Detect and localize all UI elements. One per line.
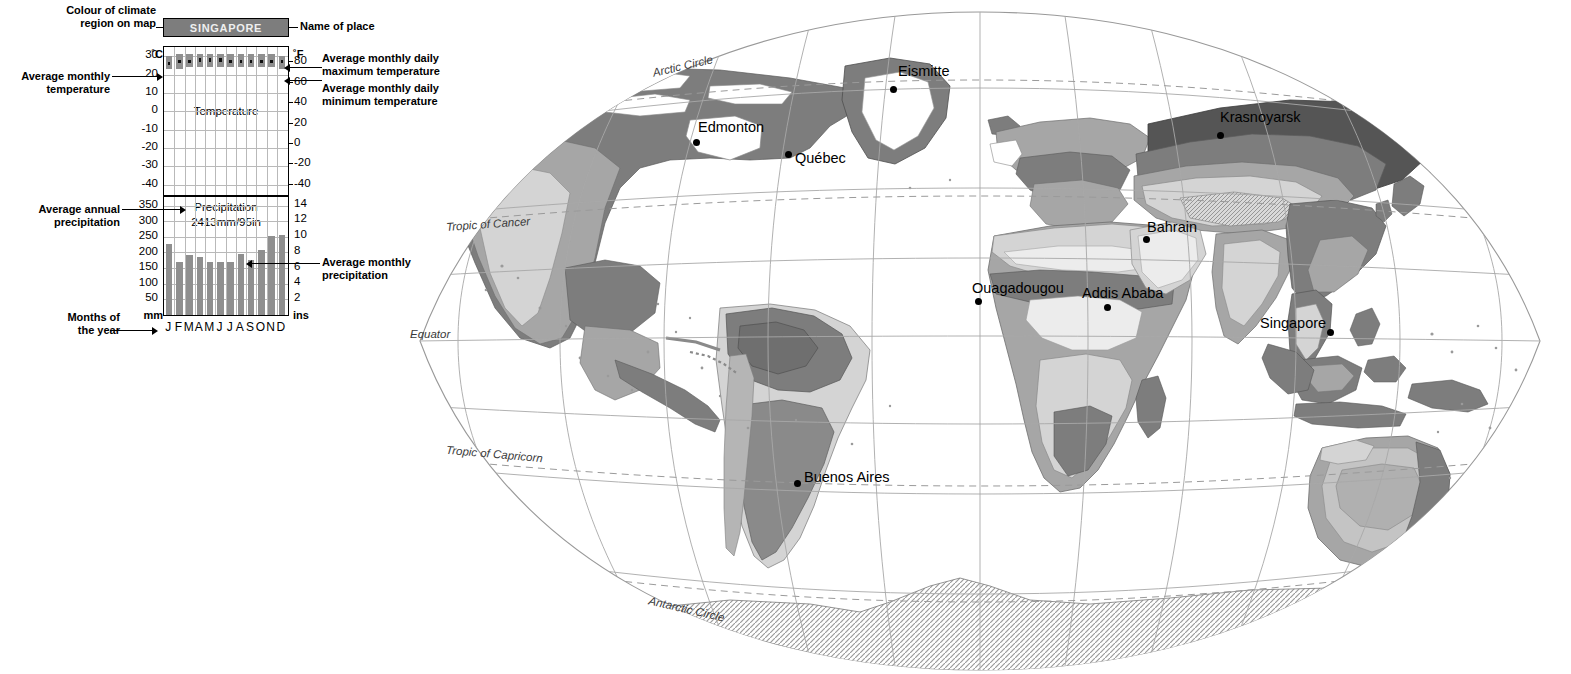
city-dot[interactable]	[1217, 132, 1224, 139]
average-temperature-marker	[178, 60, 181, 63]
average-temperature-marker	[219, 58, 222, 61]
axis-tick-label: 200	[139, 246, 158, 258]
grid-line-vertical	[246, 47, 247, 195]
city-dot[interactable]	[1104, 304, 1111, 311]
grid-line-vertical	[174, 197, 175, 315]
grid-line-vertical	[236, 47, 237, 195]
precipitation-bar	[227, 262, 234, 315]
temperature-pane: Temperature	[164, 47, 288, 195]
grid-line-vertical	[205, 47, 206, 195]
city-label[interactable]: Addis Ababa	[1082, 285, 1163, 301]
world-climate-map: Arctic CircleTropic of CancerEquatorTrop…	[390, 8, 1571, 674]
leader-line-avg-monthly-temp	[112, 76, 157, 77]
grid-line-vertical	[256, 47, 257, 195]
average-temperature-marker	[240, 60, 243, 63]
axis-tick-label: 40	[294, 96, 307, 108]
axis-tick-label: 50	[145, 292, 158, 304]
grid-line-horizontal	[164, 75, 288, 76]
city-label[interactable]: Edmonton	[698, 119, 764, 135]
grid-line-vertical	[256, 197, 257, 315]
arrow-avg-daily-max	[284, 64, 290, 72]
precipitation-bar	[279, 235, 286, 315]
average-temperature-marker	[260, 60, 263, 63]
grid-line-horizontal	[164, 130, 288, 131]
axis-tick-label: 14	[294, 198, 307, 210]
axis-celsius: 3020100-10-20-30-40	[128, 46, 158, 196]
average-temperature-marker	[188, 60, 191, 63]
axis-tick-label: -20	[141, 141, 158, 153]
axis-tick-label: -20	[294, 157, 311, 169]
axis-tick-label: 0	[294, 137, 300, 149]
grid-line-horizontal	[164, 166, 288, 167]
city-dot[interactable]	[794, 480, 801, 487]
grid-line-horizontal	[164, 148, 288, 149]
annotation-colour-of-region-line2: region on map	[80, 17, 156, 29]
axis-tick-label: 250	[139, 230, 158, 242]
grid-line-vertical	[226, 197, 227, 315]
grid-line-horizontal	[164, 111, 288, 112]
grid-line-vertical	[236, 197, 237, 315]
axis-tick-label: 20	[294, 117, 307, 129]
grid-line-vertical	[215, 197, 216, 315]
axis-tick-label: 2	[294, 292, 300, 304]
city-dot[interactable]	[785, 151, 792, 158]
place-name-bar: SINGAPORE	[163, 18, 289, 37]
grid-line-vertical	[246, 197, 247, 315]
axis-tick-label: -10	[141, 123, 158, 135]
precipitation-bar	[197, 257, 204, 315]
grid-line-vertical	[174, 47, 175, 195]
city-label[interactable]: Krasnoyarsk	[1220, 109, 1301, 125]
annotation-months-line1: Months of	[67, 311, 120, 323]
city-label[interactable]: Ouagadougou	[972, 280, 1064, 296]
annotation-avg-annual-precip: Average annual precipitation	[0, 203, 120, 228]
leader-line-avg-monthly-precip	[252, 263, 320, 264]
precipitation-bar	[268, 236, 275, 315]
axis-tick-label: 10	[294, 229, 307, 241]
precipitation-pane: Precipitation 2413mm/95in	[164, 197, 288, 315]
annotation-avg-monthly-temperature: Average monthly temperature	[0, 70, 110, 95]
axis-tick-mark	[288, 143, 293, 144]
city-label[interactable]: Buenos Aires	[804, 469, 889, 485]
axis-tick-mark	[288, 163, 293, 164]
axis-tick-label: 80	[294, 55, 307, 67]
annotation-months-of-year: Months of the year	[30, 311, 120, 336]
precipitation-bar	[176, 262, 183, 315]
city-dot[interactable]	[890, 86, 897, 93]
leader-line-avg-annual-precip	[122, 209, 180, 210]
axis-tick-label: 100	[139, 277, 158, 289]
arrow-months	[152, 327, 158, 335]
axis-tick-label: -40	[141, 178, 158, 190]
city-dot[interactable]	[1143, 236, 1150, 243]
leader-line-avg-daily-max	[290, 67, 322, 68]
precipitation-bar	[207, 262, 214, 315]
annotation-avg-annual-precip-line1: Average annual	[38, 203, 120, 215]
city-dot[interactable]	[693, 139, 700, 146]
city-dot[interactable]	[975, 298, 982, 305]
city-label[interactable]: Québec	[795, 150, 846, 166]
axis-tick-mark	[288, 123, 293, 124]
axis-tick-label: -40	[294, 178, 311, 190]
city-dot[interactable]	[1327, 329, 1334, 336]
precipitation-bar	[248, 260, 255, 315]
annotation-name-of-place-text: Name of place	[300, 20, 375, 32]
arrow-avg-monthly-precip	[246, 260, 252, 268]
axis-tick-label: 150	[139, 261, 158, 273]
arrow-avg-annual-precip	[180, 206, 186, 214]
annotation-colour-of-region: Colour of climate region on map	[20, 4, 156, 29]
city-label[interactable]: Eismitte	[898, 63, 950, 79]
annotation-avg-monthly-temp-line2: temperature	[46, 83, 110, 95]
axis-tick-label: 60	[294, 76, 307, 88]
city-label[interactable]: Bahrain	[1147, 219, 1197, 235]
axis-tick-label: 0	[152, 104, 158, 116]
axis-tick-label: 8	[294, 245, 300, 257]
axis-tick-mark	[288, 184, 293, 185]
grid-line-vertical	[277, 197, 278, 315]
precipitation-bar	[217, 262, 224, 315]
axis-tick-label: 4	[294, 276, 300, 288]
annotation-name-of-place: Name of place	[300, 20, 375, 33]
map-graphic	[390, 8, 1571, 674]
leader-line-avg-daily-min	[290, 80, 322, 81]
axis-tick-label: 30	[145, 49, 158, 61]
city-label[interactable]: Singapore	[1260, 315, 1326, 331]
grid-line-vertical	[195, 47, 196, 195]
